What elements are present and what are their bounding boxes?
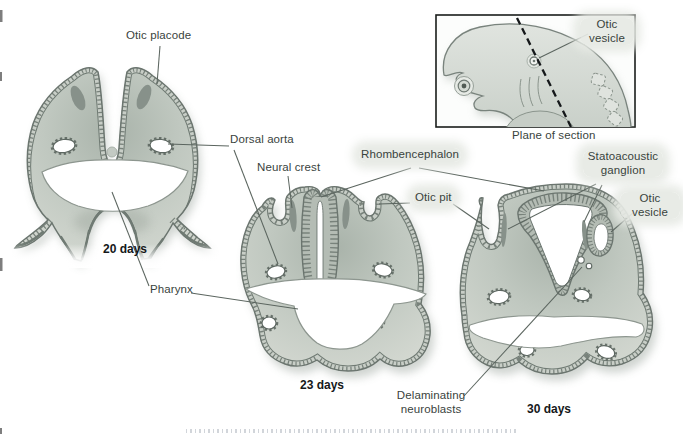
label-otic-vesicle-30: Otic vesicle bbox=[620, 192, 680, 219]
label-statoacoustic-line2: ganglion bbox=[601, 164, 645, 176]
label-neural-crest: Neural crest bbox=[257, 161, 320, 175]
embryo-eye bbox=[455, 77, 474, 96]
section-23-days-illustration bbox=[241, 187, 434, 378]
stage-label-30-days: 30 days bbox=[527, 402, 571, 416]
label-rhombencephalon: Rhombencephalon bbox=[359, 148, 461, 162]
label-delaminating-line1: Delaminating bbox=[397, 389, 465, 401]
stage-label-23-days: 23 days bbox=[300, 378, 344, 392]
label-delaminating-neuroblasts: Delaminating neuroblasts bbox=[392, 389, 470, 416]
notochord bbox=[107, 147, 117, 157]
otic-vesicle-30 bbox=[587, 215, 613, 256]
leader-rhombencephalon-left bbox=[321, 168, 411, 197]
label-inset-otic-vesicle-line2: vesicle bbox=[589, 32, 625, 44]
label-statoacoustic-ganglion: Statoacoustic ganglion bbox=[583, 150, 663, 177]
label-plane-of-section: Plane of section bbox=[512, 129, 595, 143]
leader-rhombencephalon-right bbox=[419, 168, 544, 191]
label-otic-vesicle-line1: Otic bbox=[640, 192, 661, 204]
section-20-days-illustration bbox=[6, 68, 220, 268]
cropped-caption-fragment bbox=[186, 429, 518, 433]
scan-artifacts bbox=[0, 10, 3, 434]
label-inset-otic-vesicle-line1: Otic bbox=[597, 18, 618, 30]
label-otic-pit: Otic pit bbox=[413, 191, 454, 205]
label-inset-otic-vesicle: Otic vesicle bbox=[580, 18, 634, 45]
illustration-svg bbox=[0, 0, 683, 435]
leader-otic-placode bbox=[157, 46, 160, 84]
label-delaminating-line2: neuroblasts bbox=[401, 403, 462, 415]
label-pharynx: Pharynx bbox=[150, 283, 193, 297]
stage-label-20-days: 20 days bbox=[103, 242, 147, 256]
label-otic-vesicle-line2: vesicle bbox=[632, 206, 668, 218]
figure-canvas: Otic placode Dorsal aorta Neural crest R… bbox=[0, 0, 683, 435]
label-statoacoustic-line1: Statoacoustic bbox=[588, 150, 658, 162]
label-dorsal-aorta: Dorsal aorta bbox=[230, 133, 294, 147]
label-otic-placode: Otic placode bbox=[126, 29, 191, 43]
